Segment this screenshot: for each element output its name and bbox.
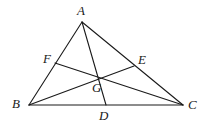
point-label-A: A xyxy=(77,4,85,17)
cevians xyxy=(29,22,183,105)
cevian-CF xyxy=(55,63,183,105)
point-label-G: G xyxy=(92,81,101,94)
triangle-sides xyxy=(29,22,183,105)
geometry-figure: A B C D E F G xyxy=(0,0,210,136)
point-label-C: C xyxy=(188,98,197,111)
point-label-B: B xyxy=(12,97,20,110)
point-label-E: E xyxy=(138,53,146,66)
point-label-F: F xyxy=(43,52,51,65)
point-label-D: D xyxy=(99,109,108,122)
